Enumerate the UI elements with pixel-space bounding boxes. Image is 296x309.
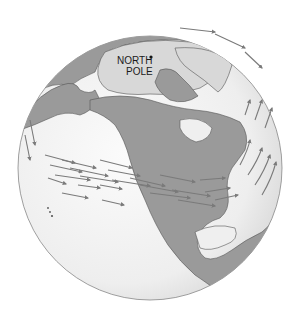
globe-figure: NORTH POLE	[0, 0, 296, 309]
north-pole-label-line1: NORTH	[117, 55, 152, 66]
north-pole-label-line2: POLE	[126, 66, 153, 77]
